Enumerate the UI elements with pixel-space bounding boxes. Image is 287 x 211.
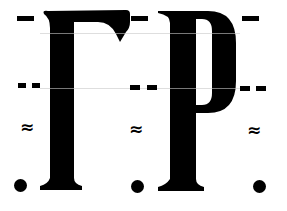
approx-marker: ≈ (20, 119, 34, 136)
single-dash-marker (17, 16, 34, 21)
double-dash-marker (130, 85, 140, 90)
double-dash-marker (32, 83, 40, 88)
single-dash-marker (242, 16, 259, 21)
double-dash-marker (147, 85, 157, 90)
approx-marker: ≈ (247, 122, 261, 139)
double-dash-marker (18, 83, 26, 88)
dot-marker (131, 180, 144, 193)
approx-marker: ≈ (129, 121, 143, 138)
double-dash-marker (240, 86, 250, 91)
guide-line-mid (40, 88, 240, 89)
dot-marker (14, 179, 27, 192)
guide-line-top (40, 33, 240, 34)
letter-rho (156, 9, 236, 193)
type-specimen: Γ Ρ ≈ ≈ ≈ (0, 0, 287, 211)
double-dash-marker (256, 86, 266, 91)
single-dash-marker (131, 16, 148, 21)
dot-marker (253, 180, 266, 193)
letter-gamma (38, 8, 134, 192)
